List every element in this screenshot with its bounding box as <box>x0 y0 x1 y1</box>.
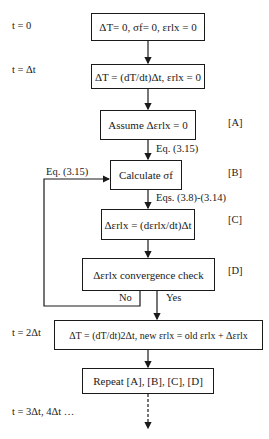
time-label-t0: t = 0 <box>12 20 31 31</box>
step-tag-d: [D] <box>228 265 243 276</box>
step-tag-c: [C] <box>228 214 242 225</box>
time-label-t3: t = 3Δt, 4Δt … <box>12 406 74 417</box>
edge-label-yes: Yes <box>166 292 181 303</box>
box-delta-strain: Δεrlx = (dεrlx/dt)Δt <box>101 209 195 240</box>
edge-label-no: No <box>119 292 132 303</box>
edge-label-loop: Eq. (3.15) <box>46 166 88 177</box>
box-calculate: Calculate σf <box>110 160 182 190</box>
box-convergence-check: Δεrlx convergence check <box>82 258 215 291</box>
edge-label-b-to-c: Eqs. (3.8)-(3.14) <box>156 192 226 203</box>
step-tag-b: [B] <box>228 167 242 178</box>
box-initial-conditions: ΔT= 0, σf= 0, εrlx = 0 <box>91 13 205 41</box>
time-label-t1: t = Δt <box>12 64 36 75</box>
box-first-step: ΔT = (dT/dt)Δt, εrlx = 0 <box>91 64 205 89</box>
edge-label-a-to-b: Eq. (3.15) <box>156 143 198 154</box>
step-tag-a: [A] <box>228 117 243 128</box>
time-label-t2: t = 2Δt <box>12 327 41 338</box>
box-repeat: Repeat [A], [B], [C], [D] <box>82 368 214 394</box>
box-second-step: ΔT = (dT/dt)2Δt, new εrlx = old εrlx + Δ… <box>54 320 263 350</box>
box-assume: Assume Δεrlx = 0 <box>100 110 196 140</box>
